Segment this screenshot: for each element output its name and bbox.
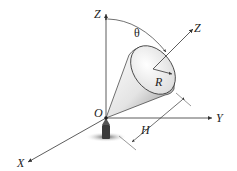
label-y-axis: Y	[216, 111, 224, 125]
label-height: H	[140, 123, 151, 137]
origin-point	[104, 116, 108, 120]
label-x-axis: X	[16, 156, 25, 170]
cone-diagram: Z Y X O Z θ R H	[0, 0, 237, 171]
label-origin: O	[94, 106, 103, 120]
height-dimension	[132, 100, 182, 142]
stand-post	[102, 125, 110, 139]
label-theta: θ	[134, 26, 140, 40]
tilted-z-axis	[153, 29, 193, 69]
label-radius: R	[154, 75, 163, 89]
height-ext-bottom	[119, 136, 136, 150]
label-z-axis: Z	[94, 7, 101, 21]
height-ext-top	[176, 93, 191, 106]
label-tilted-z: Z	[194, 21, 201, 35]
